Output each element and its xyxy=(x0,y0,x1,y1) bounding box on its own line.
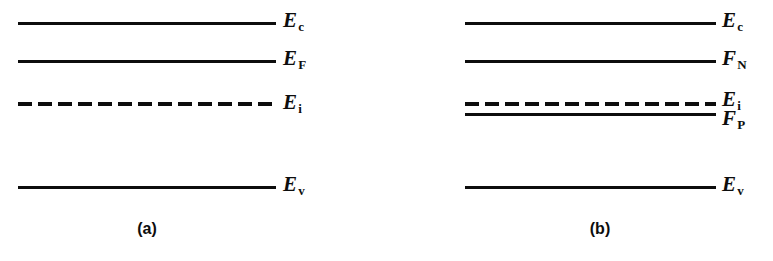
subscript-i: i xyxy=(298,101,302,116)
panel-b: Ec FN Ei FP Ev (b) xyxy=(386,0,773,261)
subscript-c: c xyxy=(298,19,304,34)
panel-caption-b: (b) xyxy=(590,221,610,237)
energy-level-line-ec-a xyxy=(18,22,276,25)
subscript-v: v xyxy=(737,183,744,198)
energy-level-line-fp-b xyxy=(465,113,716,116)
energy-level-line-ei-b xyxy=(465,102,716,106)
energy-level-label-fp-b: FP xyxy=(722,108,744,129)
subscript-c: c xyxy=(737,19,743,34)
energy-level-line-ec-b xyxy=(465,22,716,25)
energy-level-line-fn-b xyxy=(465,60,716,63)
energy-band-diagram-figure: Ec EF Ei Ev (a) Ec FN Ei FP Ev (b) xyxy=(0,0,773,261)
energy-level-label-ef-a: EF xyxy=(283,48,305,69)
panel-a: Ec EF Ei Ev (a) xyxy=(0,0,386,261)
energy-level-label-ev-b: Ev xyxy=(722,174,743,195)
energy-level-line-ei-a xyxy=(18,102,276,106)
subscript-p: P xyxy=(737,117,745,132)
energy-level-line-ef-a xyxy=(18,60,276,63)
energy-level-label-ei-a: Ei xyxy=(283,92,301,113)
subscript-v: v xyxy=(298,183,305,198)
energy-level-label-fn-b: FN xyxy=(722,48,746,69)
energy-level-line-ev-b xyxy=(465,186,716,189)
energy-level-label-ec-a: Ec xyxy=(283,10,303,31)
energy-level-label-ec-b: Ec xyxy=(722,10,742,31)
panel-caption-a: (a) xyxy=(137,221,157,237)
energy-level-line-ev-a xyxy=(18,186,276,189)
subscript-f: F xyxy=(298,57,306,72)
subscript-n: N xyxy=(737,57,746,72)
energy-level-label-ev-a: Ev xyxy=(283,174,304,195)
